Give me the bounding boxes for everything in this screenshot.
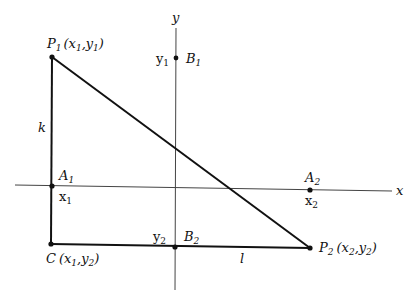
label-b1: B1 [185,51,201,68]
label-p1: P1(x1,y1) [46,36,104,53]
label-c: C(x1,y2) [46,251,99,268]
label-p2: P2(x2,y2) [318,240,377,257]
y-axis [175,28,176,290]
label-y2-tick: y2 [152,229,166,246]
point-b2 [172,244,177,249]
label-x1-tick: x1 [59,189,72,206]
point-p1 [49,54,54,59]
x-axis-label: x [396,183,404,198]
point-a2 [307,187,312,192]
point-b1 [174,56,179,61]
point-c [48,241,53,246]
x-axis [15,185,392,191]
label-y1-tick: y1 [155,51,169,68]
segment-l [51,244,310,248]
point-a1 [49,183,54,188]
y-axis-label: y [171,10,180,25]
label-a1: A1 [58,168,74,185]
label-l: l [240,251,244,266]
label-a2: A2 [304,170,320,187]
point-p2 [307,245,312,250]
label-k: k [38,120,46,135]
hypotenuse-p1-p2 [52,57,310,248]
coordinate-diagram: x y P1(x1,y1) y1 B1 k A1 x1 A2 x2 y2 B2 [0,0,419,297]
label-b2: B2 [183,229,200,246]
segment-k [51,57,52,244]
label-x2-tick: x2 [305,193,318,210]
